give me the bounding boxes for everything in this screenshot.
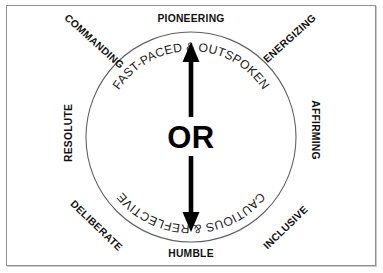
center-or-label: OR (167, 120, 215, 155)
center-or-group: OR (163, 117, 219, 156)
ring-label-inclusive: INCLUSIVE (261, 204, 310, 252)
ring-label-resolute: RESOLUTE (63, 104, 74, 162)
ring-label-affirming: AFFIRMING (310, 100, 321, 159)
ring-label-humble: HUMBLE (168, 248, 214, 259)
figure-root: PIONEERING ENERGIZING AFFIRMING INCLUSIV… (0, 0, 383, 273)
ring-label-commanding: COMMANDING (63, 12, 127, 71)
ring-label-energizing: ENERGIZING (261, 12, 318, 65)
ring-label-pioneering: PIONEERING (157, 13, 224, 24)
circular-wheel-diagram: PIONEERING ENERGIZING AFFIRMING INCLUSIV… (0, 0, 383, 273)
ring-label-deliberate: DELIBERATE (68, 198, 124, 253)
